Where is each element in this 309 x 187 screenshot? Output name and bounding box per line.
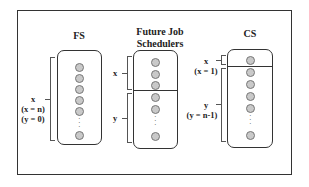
- fjs-x-brace: [127, 56, 132, 90]
- fjs-x-tick: [122, 73, 127, 74]
- fjs-y-label: y: [110, 113, 120, 123]
- cs-x-brace: [221, 55, 226, 65]
- ellipsis-icon: ···: [154, 115, 156, 127]
- fjs-title-line2: Schedulers: [130, 38, 190, 50]
- cs-x-tick: [216, 60, 221, 61]
- node: [75, 85, 84, 94]
- fs-x-value: (x = n): [18, 104, 48, 114]
- fjs-divider: [133, 90, 178, 91]
- fjs-y-tick: [122, 118, 127, 119]
- cs-x-label: x: [196, 56, 216, 66]
- node: [151, 81, 160, 90]
- node: [75, 96, 84, 105]
- node: [151, 70, 160, 79]
- cs-y-value: (y = n-1): [186, 110, 218, 120]
- cs-x-value: (x = 1): [193, 66, 219, 76]
- cs-divider: [227, 66, 273, 67]
- fs-title: FS: [64, 30, 94, 42]
- node: [151, 93, 160, 102]
- fs-x-brace: [50, 57, 55, 141]
- fs-y-value: (y = 0): [18, 114, 48, 124]
- node: [151, 132, 160, 141]
- cs-y-label: y: [196, 100, 216, 110]
- cs-title: CS: [235, 28, 265, 40]
- cs-y-brace: [221, 68, 226, 142]
- node: [75, 63, 84, 72]
- cs-y-tick: [216, 104, 221, 105]
- node: [151, 58, 160, 67]
- fjs-y-brace: [127, 93, 132, 143]
- node: [75, 74, 84, 83]
- ellipsis-icon: ···: [78, 117, 80, 129]
- node: [246, 56, 255, 65]
- node: [246, 80, 255, 89]
- fjs-x-label: x: [110, 68, 120, 78]
- node: [246, 131, 255, 140]
- node: [246, 92, 255, 101]
- fs-x-label: x: [18, 94, 48, 104]
- node: [75, 131, 84, 140]
- ellipsis-icon: ···: [249, 114, 251, 126]
- fjs-title-line1: Future Job: [130, 26, 190, 38]
- node: [246, 68, 255, 77]
